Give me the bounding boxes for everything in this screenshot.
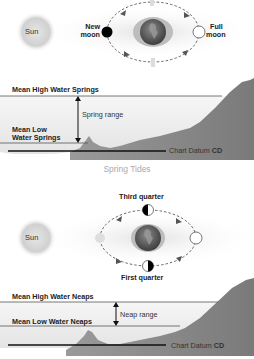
neap-range-label: Neap range — [120, 311, 158, 319]
first-quarter-label: First quarter — [121, 274, 163, 282]
third-quarter-label: Third quarter — [119, 193, 164, 201]
neap-datum-text: Chart Datum — [171, 341, 212, 350]
neap-datum-abbrev: CD — [214, 341, 224, 350]
neap-orbit-graphic — [0, 0, 254, 359]
neap-chart-datum-label: Chart Datum CD — [171, 342, 224, 350]
mhwn-label: Mean High Water Neaps — [12, 293, 94, 301]
mlwn-label: Mean Low Water Neaps — [12, 318, 92, 326]
neap-sun-label: Sun — [25, 233, 38, 242]
